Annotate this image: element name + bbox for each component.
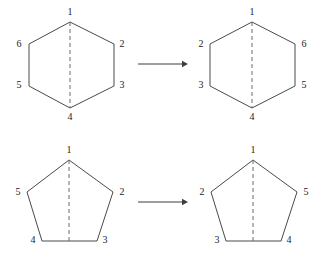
pentagon-right-vertex-label-2: 2 <box>200 186 205 197</box>
hexagon-right-group: 165432 <box>199 6 307 122</box>
pentagon-right-vertex-label-3: 3 <box>215 234 220 245</box>
pentagon-left-vertex-label-1: 1 <box>67 144 72 155</box>
pentagon-right-vertex-label-4: 4 <box>287 234 292 245</box>
hexagon-left-group: 123456 <box>17 6 125 122</box>
hexagon-left-vertex-label-5: 5 <box>17 79 22 90</box>
hexagon-right-vertex-label-6: 6 <box>302 38 307 49</box>
pentagon-left-vertex-label-3: 3 <box>103 234 108 245</box>
arrow-top-group <box>138 61 188 67</box>
hexagon-right-vertex-label-5: 5 <box>302 79 307 90</box>
hexagon-right-vertex-label-1: 1 <box>250 6 255 17</box>
hexagon-left-vertex-label-4: 4 <box>68 111 73 122</box>
polygon-reflection-figure: 1234561654321234515432 <box>0 0 319 264</box>
arrow-bottom-head <box>182 199 188 205</box>
hexagon-left-vertex-label-1: 1 <box>68 6 73 17</box>
pentagon-left-vertex-label-4: 4 <box>31 234 36 245</box>
arrows-group <box>138 61 188 205</box>
pentagon-left-vertex-label-5: 5 <box>16 186 21 197</box>
hexagon-right-vertex-label-4: 4 <box>250 111 255 122</box>
pentagon-left-group: 12345 <box>16 144 125 245</box>
polygon-panels-group: 1234561654321234515432 <box>16 6 309 245</box>
hexagon-left-outline <box>29 22 114 108</box>
pentagon-left-vertex-label-2: 2 <box>120 186 125 197</box>
hexagon-left-vertex-label-2: 2 <box>120 38 125 49</box>
hexagon-left-vertex-label-6: 6 <box>17 38 22 49</box>
figure-canvas: 1234561654321234515432 <box>0 0 319 264</box>
pentagon-right-outline <box>211 160 297 241</box>
hexagon-right-vertex-label-3: 3 <box>199 79 204 90</box>
hexagon-right-vertex-label-2: 2 <box>199 38 204 49</box>
pentagon-right-vertex-label-5: 5 <box>304 186 309 197</box>
pentagon-right-group: 15432 <box>200 144 309 245</box>
hexagon-left-vertex-label-3: 3 <box>120 79 125 90</box>
arrow-bottom-group <box>138 199 188 205</box>
arrow-top-head <box>182 61 188 67</box>
pentagon-right-vertex-label-1: 1 <box>251 144 256 155</box>
pentagon-left-outline <box>27 160 113 241</box>
